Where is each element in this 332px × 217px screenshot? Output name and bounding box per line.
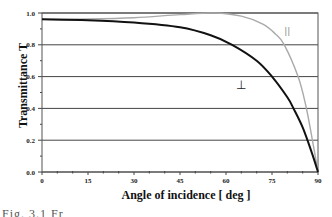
x-tick-label: 90 — [315, 177, 323, 185]
y-tick-label: 0.0 — [26, 169, 35, 177]
y-axis-label: Transmittance T — [16, 21, 31, 151]
parallel-symbol-label: || — [284, 26, 290, 36]
figure-caption-fragment: Fig. 3.1 Fr — [2, 207, 64, 217]
x-tick-label: 30 — [131, 177, 139, 185]
x-tick-label: 15 — [85, 177, 93, 185]
chart-plot-area: 0.00.20.40.60.81.00153045607590||⊥ — [0, 0, 332, 217]
series-parallel-line — [42, 13, 318, 172]
series-perpendicular-line — [42, 19, 318, 172]
y-tick-label: 1.0 — [26, 10, 35, 18]
perpendicular-symbol-label: ⊥ — [236, 78, 246, 92]
x-tick-label: 75 — [269, 177, 277, 185]
x-tick-label: 0 — [40, 177, 44, 185]
x-tick-label: 45 — [177, 177, 185, 185]
x-tick-label: 60 — [223, 177, 231, 185]
plot-frame — [42, 13, 318, 172]
x-axis-label: Angle of incidence [ deg ] — [0, 188, 332, 203]
